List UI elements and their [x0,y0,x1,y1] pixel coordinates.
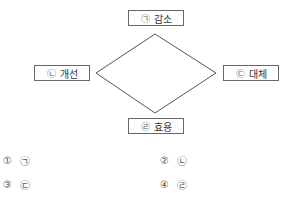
option-answer: ㉣ [177,177,187,192]
option-3[interactable]: ③ ㉢ [3,177,30,192]
option-number: ④ [160,179,169,190]
option-4[interactable]: ④ ㉣ [160,177,187,192]
option-number: ① [3,155,12,166]
option-2[interactable]: ② ㉡ [160,153,187,168]
option-answer: ㉡ [177,153,187,168]
node-marker: ㉠ [141,12,150,25]
node-marker: ㉣ [141,120,150,133]
node-right: ㉢ 대체 [223,65,279,81]
node-label: 개선 [60,66,78,81]
option-answer: ㉠ [20,153,30,168]
node-label: 대체 [249,66,267,81]
diamond-shape [0,0,290,200]
option-answer: ㉢ [20,177,30,192]
node-label: 감소 [154,11,172,26]
node-left: ㉡ 개선 [34,65,90,81]
option-number: ③ [3,179,12,190]
node-label: 효용 [154,119,172,134]
node-top: ㉠ 감소 [128,10,184,26]
node-marker: ㉡ [47,67,56,80]
option-1[interactable]: ① ㉠ [3,153,30,168]
node-bottom: ㉣ 효용 [128,118,184,134]
option-number: ② [160,155,169,166]
node-marker: ㉢ [236,67,245,80]
